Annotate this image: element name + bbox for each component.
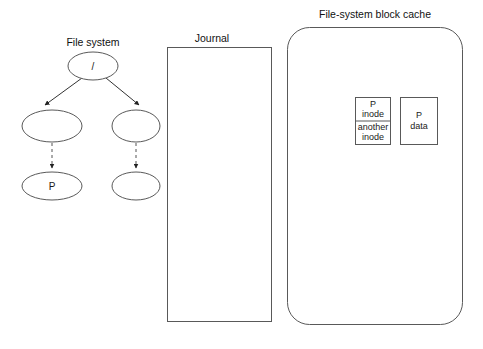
fs-node-root-label: / (92, 61, 95, 72)
fs-node-mid-left-shape (22, 110, 82, 142)
fs-node-leaf-left-label: P (49, 181, 56, 192)
journal-title: Journal (195, 32, 229, 44)
cache-data-cell0-line2: data (410, 121, 428, 131)
cache-title: File-system block cache (319, 8, 431, 20)
cache-inode-cell1-line1: another (358, 122, 389, 132)
cache-inode-block[interactable]: P inode another inode (356, 98, 391, 145)
filesystem-group: File system / (22, 36, 160, 200)
cache-inode-cell1-line2: inode (362, 132, 384, 142)
fs-node-root[interactable]: / (68, 52, 118, 80)
filesystem-title: File system (66, 36, 119, 48)
diagram-canvas: File system / (0, 0, 483, 349)
cache-group: File-system block cache P inode another … (288, 8, 463, 325)
fs-node-mid-right[interactable] (112, 110, 160, 142)
cache-inode-cell0-line2: inode (362, 109, 384, 119)
journal-group: Journal (168, 32, 272, 322)
fs-node-leaf-left[interactable]: P (22, 172, 82, 200)
edge-root-to-mid-left (45, 78, 82, 105)
fs-node-leaf-right[interactable] (112, 172, 160, 200)
cache-data-cell0-line1: P (416, 110, 422, 120)
edge-root-to-mid-right (106, 78, 139, 105)
fs-node-leaf-right-shape (112, 172, 160, 200)
journal-box[interactable] (168, 48, 272, 322)
fs-node-mid-right-shape (112, 110, 160, 142)
filesystem-journal-cache-diagram: File system / (0, 0, 483, 349)
cache-data-block[interactable]: P data (401, 98, 438, 145)
cache-inode-cell0-line1: P (370, 99, 376, 109)
fs-node-mid-left[interactable] (22, 110, 82, 142)
cache-container[interactable] (288, 28, 463, 325)
